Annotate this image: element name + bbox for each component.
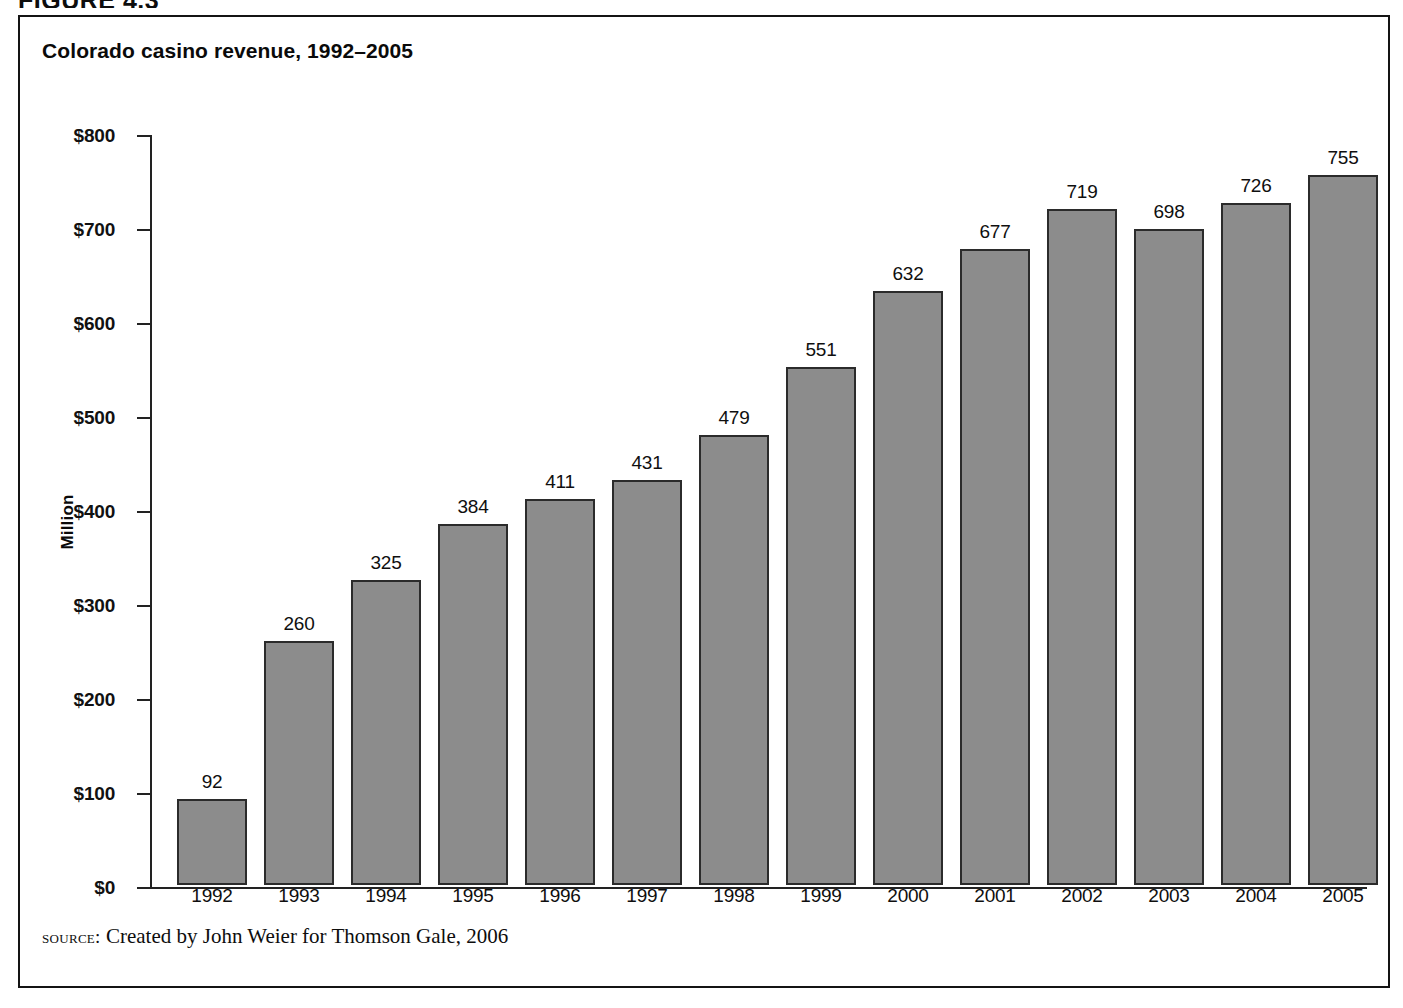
source-label: source: xyxy=(42,926,101,947)
x-axis-tick-label: 1998 xyxy=(699,885,769,907)
bar xyxy=(873,291,943,885)
x-axis-tick-label: 1995 xyxy=(438,885,508,907)
bar xyxy=(699,435,769,885)
x-axis-tick-label: 1992 xyxy=(177,885,247,907)
y-axis-tick-label: $400 xyxy=(74,501,115,523)
bar-group: 3841995 xyxy=(430,119,517,885)
bar-group: 7552005 xyxy=(1300,119,1387,885)
y-axis-tick-label: $700 xyxy=(74,219,115,241)
x-axis-tick-label: 1999 xyxy=(786,885,856,907)
bar-value-label: 755 xyxy=(1308,147,1378,169)
bar-value-label: 479 xyxy=(699,407,769,429)
y-axis-tick-label: $200 xyxy=(74,689,115,711)
y-axis-tick: $200 xyxy=(137,699,150,701)
chart-title: Colorado casino revenue, 1992–2005 xyxy=(42,39,413,63)
bar-group: 2601993 xyxy=(256,119,343,885)
bar-value-label: 411 xyxy=(525,471,595,493)
y-axis-tick: $300 xyxy=(137,605,150,607)
bar xyxy=(1221,203,1291,885)
x-axis-tick-label: 1997 xyxy=(612,885,682,907)
bar-group: 4311997 xyxy=(604,119,691,885)
bar-group: 7192002 xyxy=(1039,119,1126,885)
bar-group: 5511999 xyxy=(778,119,865,885)
bar xyxy=(264,641,334,885)
y-axis-tick: $400 xyxy=(137,511,150,513)
bar-value-label: 384 xyxy=(438,496,508,518)
bar xyxy=(612,480,682,885)
y-axis-tick: $100 xyxy=(137,793,150,795)
x-axis-tick-label: 1996 xyxy=(525,885,595,907)
bar-group: 3251994 xyxy=(343,119,430,885)
x-axis-tick-label: 1993 xyxy=(264,885,334,907)
bar xyxy=(960,249,1030,885)
x-axis-tick-label: 2000 xyxy=(873,885,943,907)
bar xyxy=(525,499,595,885)
y-axis-tick-label: $600 xyxy=(74,313,115,335)
bar xyxy=(1134,229,1204,885)
bar-group: 921992 xyxy=(169,119,256,885)
y-axis-tick-label: $800 xyxy=(74,125,115,147)
bar-value-label: 726 xyxy=(1221,175,1291,197)
x-axis-tick-label: 2003 xyxy=(1134,885,1204,907)
x-axis-tick-label: 2005 xyxy=(1308,885,1378,907)
y-axis-tick: $0 xyxy=(137,887,150,889)
bar xyxy=(438,524,508,885)
bar-value-label: 698 xyxy=(1134,201,1204,223)
bar-value-label: 551 xyxy=(786,339,856,361)
x-axis-tick-label: 2001 xyxy=(960,885,1030,907)
figure-caption: FIGURE 4.3 xyxy=(18,0,159,8)
x-axis-tick-label: 2004 xyxy=(1221,885,1291,907)
y-axis-line xyxy=(150,135,152,888)
bar-value-label: 260 xyxy=(264,613,334,635)
bar-group: 7262004 xyxy=(1213,119,1300,885)
bar xyxy=(786,367,856,885)
y-axis-tick: $500 xyxy=(137,417,150,419)
x-axis-tick-label: 1994 xyxy=(351,885,421,907)
x-axis-tick-label: 2002 xyxy=(1047,885,1117,907)
source-text: Created by John Weier for Thomson Gale, … xyxy=(106,924,508,948)
bar xyxy=(1047,209,1117,885)
bar-value-label: 92 xyxy=(177,771,247,793)
bar xyxy=(351,580,421,886)
bar-value-label: 677 xyxy=(960,221,1030,243)
figure-frame: Colorado casino revenue, 1992–2005 Milli… xyxy=(18,15,1390,988)
bar xyxy=(177,799,247,885)
plot-area: $0$100$200$300$400$500$600$700$800 92199… xyxy=(150,135,1367,887)
source-note: source: Created by John Weier for Thomso… xyxy=(42,924,508,949)
bar-group: 4111996 xyxy=(517,119,604,885)
y-axis-tick-label: $300 xyxy=(74,595,115,617)
bar-group: 6982003 xyxy=(1126,119,1213,885)
bar-value-label: 325 xyxy=(351,552,421,574)
y-axis-tick: $800 xyxy=(137,135,150,137)
y-axis-tick: $700 xyxy=(137,229,150,231)
y-axis-tick-label: $0 xyxy=(94,877,115,899)
y-axis-tick-label: $500 xyxy=(74,407,115,429)
y-axis-tick-label: $100 xyxy=(74,783,115,805)
bar-value-label: 632 xyxy=(873,263,943,285)
bar-group: 4791998 xyxy=(691,119,778,885)
bar-value-label: 719 xyxy=(1047,181,1117,203)
y-axis-tick: $600 xyxy=(137,323,150,325)
bar-group: 6322000 xyxy=(865,119,952,885)
bar xyxy=(1308,175,1378,885)
bar-group: 6772001 xyxy=(952,119,1039,885)
bar-value-label: 431 xyxy=(612,452,682,474)
